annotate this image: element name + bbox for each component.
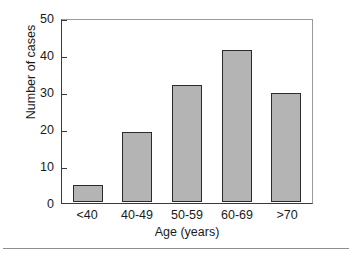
bar-slot: [63, 20, 113, 202]
x-tick-label: 40-49: [112, 208, 162, 222]
bar: [122, 132, 152, 202]
bar-slot: [113, 20, 163, 202]
bar: [222, 50, 252, 202]
x-tick-label: 60-69: [212, 208, 262, 222]
bar: [73, 185, 103, 202]
y-tick-label: 30: [28, 87, 54, 99]
x-tick-label: 50-59: [162, 208, 212, 222]
bar-slot: [162, 20, 212, 202]
y-tick-label: 50: [28, 13, 54, 25]
bar: [271, 93, 301, 202]
bar: [172, 85, 202, 202]
bar-slot: [261, 20, 311, 202]
y-tick-label: 0: [28, 198, 54, 210]
y-axis-tick-labels: 01020304050: [28, 0, 54, 258]
y-tick-label: 20: [28, 124, 54, 136]
bar-series: [63, 20, 311, 202]
bar-chart-figure: Number of cases 01020304050 <4040-4950-5…: [0, 0, 352, 258]
y-tick-label: 10: [28, 161, 54, 173]
x-tick-label: <40: [62, 208, 112, 222]
bottom-divider: [3, 248, 349, 249]
x-tick-label: >70: [262, 208, 312, 222]
bar-slot: [212, 20, 262, 202]
x-axis-tick-labels: <4040-4950-5960-69>70: [62, 208, 312, 222]
x-axis-title: Age (years): [61, 225, 313, 239]
plot-area: [61, 19, 313, 204]
y-tick-label: 40: [28, 50, 54, 62]
